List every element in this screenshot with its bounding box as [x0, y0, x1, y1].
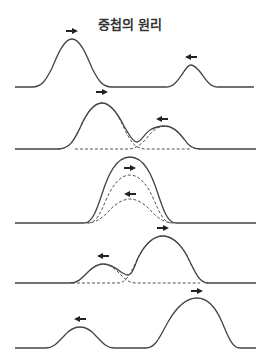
- wave-curve: [15, 39, 254, 87]
- panel-4: [15, 225, 256, 283]
- wave-curve: [15, 236, 256, 283]
- arrow-right-icon: [191, 288, 203, 294]
- panel-3: [15, 157, 256, 223]
- panel-5: [15, 288, 256, 348]
- arrow-left-icon: [156, 116, 168, 122]
- arrow-left-icon: [185, 54, 197, 60]
- arrow-right-icon: [66, 28, 78, 34]
- superposition-diagram: [0, 0, 272, 361]
- arrow-left-icon: [74, 316, 86, 322]
- arrow-right-icon: [96, 89, 108, 95]
- wave-curve: [15, 157, 256, 223]
- component-pulse-right: [75, 126, 200, 149]
- wave-curve: [15, 103, 256, 149]
- component-pulse-right: [72, 236, 208, 283]
- panel-1: [15, 28, 254, 87]
- panel-2: [15, 89, 256, 149]
- wave-curve: [15, 298, 256, 348]
- arrow-left-icon: [124, 191, 136, 197]
- arrow-right-icon: [124, 165, 136, 171]
- arrow-right-icon: [157, 225, 169, 231]
- arrow-left-icon: [97, 253, 109, 259]
